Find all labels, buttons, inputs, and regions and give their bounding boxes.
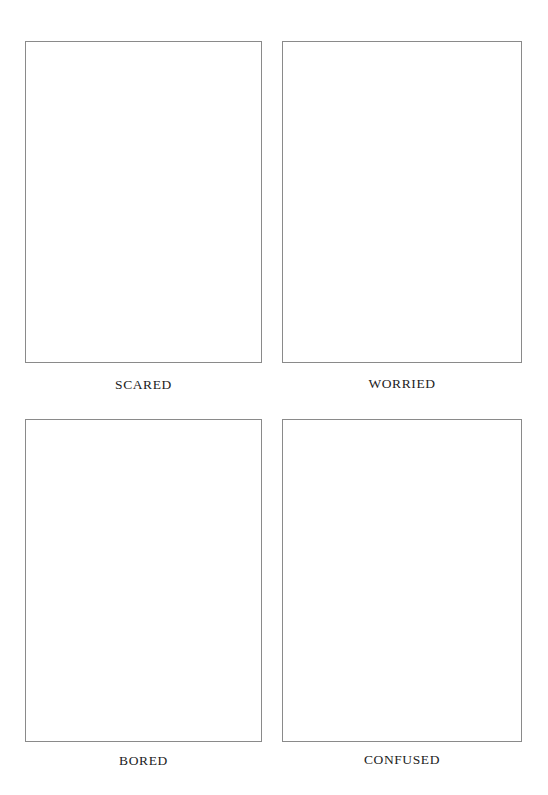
drawing-frame-confused xyxy=(282,419,522,742)
drawing-frame-worried xyxy=(282,41,522,363)
drawing-frame-scared xyxy=(25,41,262,363)
card-label-scared: SCARED xyxy=(25,377,262,393)
drawing-frame-bored xyxy=(25,419,262,742)
card-label-worried: WORRIED xyxy=(282,376,522,392)
card-label-confused: CONFUSED xyxy=(282,752,522,768)
card-label-bored: BORED xyxy=(25,753,262,769)
